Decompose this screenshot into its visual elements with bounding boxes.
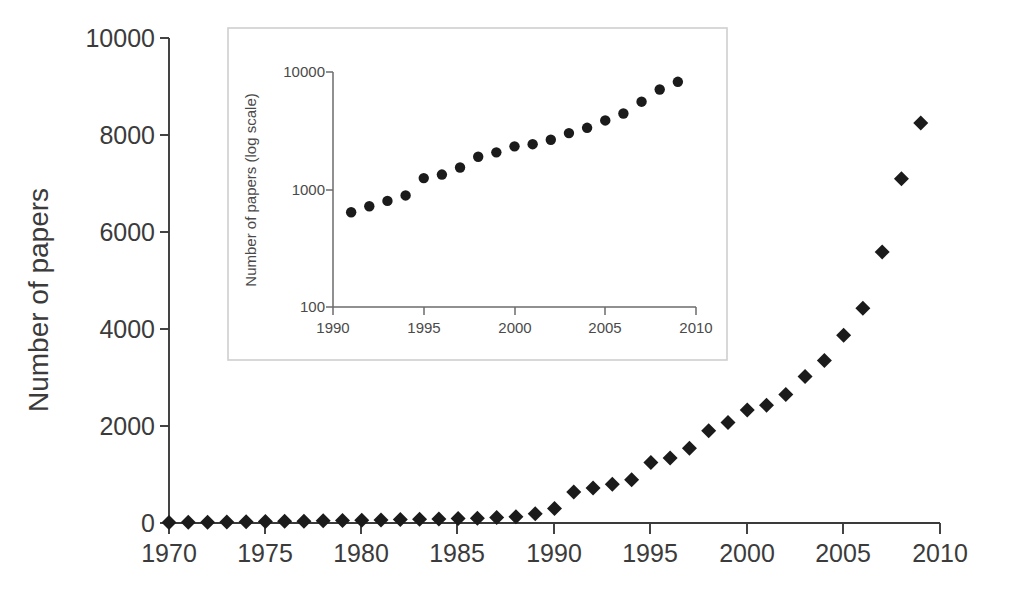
inset-y-axis-title: Number of papers (log scale)	[242, 93, 259, 286]
main-data-point	[547, 501, 562, 516]
inset-data-point	[400, 190, 410, 200]
main-x-tick-label: 1970	[141, 539, 197, 567]
inset-data-point	[437, 169, 447, 179]
main-y-tick-label: 8000	[99, 121, 155, 149]
inset-data-point	[546, 135, 556, 145]
main-data-point	[566, 484, 581, 499]
main-data-point	[682, 441, 697, 456]
main-x-tick-label: 1995	[622, 539, 678, 567]
main-data-point	[508, 509, 523, 524]
main-x-tick-label: 1980	[333, 539, 389, 567]
main-data-point	[239, 514, 254, 529]
inset-x-tick-label: 2010	[679, 319, 712, 336]
inset-x-tick-label: 1990	[316, 319, 349, 336]
inset-y-tick-label: 10000	[283, 63, 325, 80]
inset-data-point	[600, 115, 610, 125]
main-data-point	[875, 244, 890, 259]
inset-data-point	[564, 128, 574, 138]
inset-plot: Number of papers (log scale) 10000 1000 …	[228, 28, 727, 360]
main-data-point	[200, 515, 215, 530]
main-data-point	[181, 515, 196, 530]
main-x-tick-label: 1985	[429, 539, 485, 567]
main-data-point	[586, 481, 601, 496]
inset-data-point	[655, 84, 665, 94]
inset-data-point	[473, 152, 483, 162]
main-data-point	[316, 513, 331, 528]
main-x-tick-label: 1975	[237, 539, 293, 567]
main-y-tick-label: 2000	[99, 412, 155, 440]
inset-data-point	[618, 108, 628, 118]
inset-data-point	[491, 147, 501, 157]
main-data-point	[759, 398, 774, 413]
main-data-point	[431, 511, 446, 526]
main-x-tick-label: 1990	[526, 539, 582, 567]
main-data-point	[720, 415, 735, 430]
main-y-tick-label: 0	[141, 509, 155, 537]
main-y-tick-label: 10000	[85, 24, 155, 52]
main-x-tick-label: 2010	[912, 539, 968, 567]
main-data-point	[374, 512, 389, 527]
main-data-point	[836, 328, 851, 343]
main-data-point	[643, 455, 658, 470]
main-x-tick-labels: 1970 1975 1980 1985 1990 1995 2000 2005 …	[141, 539, 968, 567]
main-y-tick-label: 6000	[99, 218, 155, 246]
main-data-point	[258, 514, 273, 529]
main-data-point	[701, 423, 716, 438]
inset-data-point	[455, 162, 465, 172]
figure-canvas: Number of papers 10000 8000 6000 4000 20…	[0, 0, 1012, 592]
main-data-point	[354, 513, 369, 528]
inset-data-point	[636, 96, 646, 106]
inset-data-point	[419, 173, 429, 183]
main-data-point	[663, 451, 678, 466]
main-data-point	[528, 506, 543, 521]
inset-data-point	[582, 123, 592, 133]
main-data-point	[778, 387, 793, 402]
main-data-point	[624, 472, 639, 487]
inset-data-point	[364, 201, 374, 211]
main-data-point	[162, 515, 177, 530]
inset-x-tick-label: 2000	[498, 319, 531, 336]
main-data-point	[855, 301, 870, 316]
main-x-tick-label: 2005	[815, 539, 871, 567]
main-y-axis-title: Number of papers	[23, 188, 54, 412]
main-data-point	[817, 353, 832, 368]
main-data-point	[335, 513, 350, 528]
main-data-point	[894, 171, 909, 186]
main-data-point	[605, 477, 620, 492]
main-data-point	[913, 115, 928, 130]
main-data-point	[219, 514, 234, 529]
inset-x-tick-label: 1995	[407, 319, 440, 336]
main-y-tick-label: 4000	[99, 315, 155, 343]
main-data-point	[798, 369, 813, 384]
main-data-point	[393, 512, 408, 527]
main-y-tick-labels: 10000 8000 6000 4000 2000 0	[85, 24, 155, 537]
inset-y-tick-label: 100	[300, 298, 325, 315]
inset-data-point	[382, 196, 392, 206]
inset-data-point	[673, 77, 683, 87]
main-data-point	[412, 512, 427, 527]
inset-data-point	[346, 207, 356, 217]
inset-data-point	[527, 139, 537, 149]
main-data-point	[740, 402, 755, 417]
main-x-tick-label: 2000	[719, 539, 775, 567]
main-data-point	[277, 514, 292, 529]
main-y-ticks	[160, 38, 169, 523]
inset-data-point	[509, 141, 519, 151]
main-data-point	[296, 514, 311, 529]
number-of-papers-scatter-chart: Number of papers 10000 8000 6000 4000 20…	[0, 0, 1012, 592]
inset-x-tick-label: 2005	[588, 319, 621, 336]
inset-y-tick-label: 1000	[292, 181, 325, 198]
